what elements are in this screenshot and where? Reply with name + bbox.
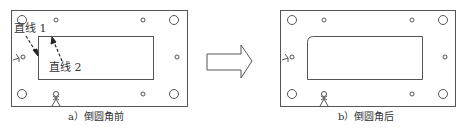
datum-mark-left-icon [13, 54, 19, 62]
small-hole-icon [21, 55, 25, 59]
hole-icon [170, 90, 179, 99]
small-hole-icon [410, 92, 414, 96]
hole-icon [288, 16, 297, 25]
annotation-line-1: 直线 1 [14, 23, 47, 34]
small-hole-icon [141, 92, 145, 96]
small-hole-icon [322, 18, 326, 22]
small-hole-icon [54, 18, 58, 22]
small-hole-icon [322, 92, 327, 97]
small-hole-icon [443, 55, 447, 59]
leader-arrowhead-1-icon [33, 49, 38, 56]
small-hole-icon [410, 18, 414, 22]
panel-b-inner-cutout-filleted [308, 37, 423, 80]
hole-icon [170, 16, 179, 25]
datum-mark-bottom-icon [52, 96, 60, 106]
leader-line-2 [54, 42, 62, 61]
panel-b-drawing [281, 11, 456, 107]
hole-icon [18, 90, 27, 99]
caption-panel-a: a）倒圆角前 [68, 112, 124, 122]
small-hole-icon [290, 55, 294, 59]
hole-icon [288, 90, 297, 99]
hole-icon [439, 16, 448, 25]
panel-b-outer-plate [281, 11, 456, 107]
datum-mark-left-icon [282, 54, 288, 62]
right-arrow-icon [207, 45, 252, 78]
annotation-line-2: 直线 2 [49, 62, 82, 73]
leader-arrowhead-2-icon [51, 37, 56, 44]
hole-icon [439, 90, 448, 99]
datum-mark-bottom-icon [320, 96, 328, 106]
caption-panel-b: b）倒圆角后 [338, 112, 394, 122]
small-hole-icon [175, 55, 179, 59]
small-hole-icon [54, 92, 59, 97]
small-hole-icon [141, 18, 145, 22]
